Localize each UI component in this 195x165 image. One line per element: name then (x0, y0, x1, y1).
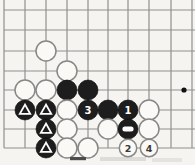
stone-white (36, 80, 56, 100)
stone-black (78, 80, 98, 100)
caption-smudge (152, 158, 182, 162)
caption-fragment-bar (70, 157, 86, 160)
move-number-label: 2 (125, 143, 132, 154)
stone-white (57, 119, 77, 139)
stone-white (78, 138, 98, 158)
stone-white (139, 119, 159, 139)
stone-white (15, 80, 35, 100)
stone-white (57, 138, 77, 158)
move-number-label: 4 (146, 143, 153, 154)
stone-white (36, 41, 56, 61)
go-diagram: 3124 (0, 0, 195, 165)
stone-black (57, 80, 77, 100)
stone-white (98, 119, 118, 139)
stone-white (139, 100, 159, 120)
move-number-label: 3 (85, 105, 92, 116)
stone-white (57, 100, 77, 120)
square-mark (122, 127, 133, 132)
star-point-dot (181, 87, 186, 92)
caption-smudge (100, 157, 146, 161)
go-board-svg: 3124 (0, 0, 195, 165)
move-number-label: 1 (125, 105, 132, 116)
stone-white (57, 61, 77, 81)
stone-black (98, 100, 118, 120)
